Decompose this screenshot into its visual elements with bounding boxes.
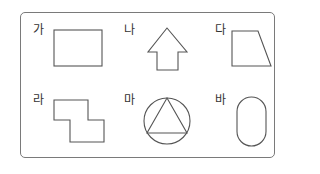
shape-rectangle [54, 30, 102, 66]
shape-arrow-up [148, 28, 187, 70]
shape-trapezoid [232, 31, 271, 66]
shape-z-polygon [54, 100, 104, 142]
shape-triangle-in-circle [144, 98, 190, 144]
shape-stadium [237, 97, 266, 146]
